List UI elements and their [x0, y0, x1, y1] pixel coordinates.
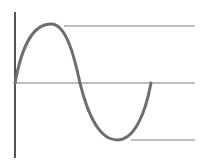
sine-wave-curve	[15, 24, 151, 140]
sine-wave-diagram	[0, 0, 207, 160]
